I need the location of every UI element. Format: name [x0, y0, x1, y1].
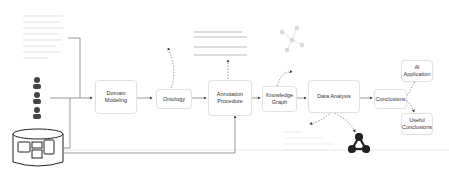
node-label: Data Analysis [317, 93, 350, 100]
node-annotation-procedure: Annotation Procedure [208, 80, 252, 116]
node-label: Domain Modeling [96, 90, 136, 104]
node-label: Knowledge Graph [263, 92, 296, 106]
document-thumbnail-icon [18, 8, 70, 64]
network-icon [348, 133, 370, 155]
node-label: AI Application [402, 64, 432, 78]
node-label: Ontology [163, 96, 185, 103]
node-domain-modeling: Domain Modeling [95, 80, 137, 114]
node-label: Annotation Procedure [209, 91, 251, 105]
node-label: Useful Conclusions [402, 117, 432, 131]
node-ontology: Ontology [156, 89, 192, 109]
graph-preview-icon [272, 20, 312, 65]
node-useful-conclusions: Useful Conclusions [401, 113, 433, 135]
analysis-text-preview [282, 128, 342, 158]
person-icons [28, 75, 46, 121]
annotation-text-preview [192, 28, 252, 63]
node-knowledge-graph: Knowledge Graph [262, 86, 297, 112]
node-label: Conclusions [376, 96, 406, 103]
node-conclusions: Conclusions [374, 89, 407, 109]
database-icon [10, 126, 66, 170]
node-data-analysis: Data Analysis [308, 80, 360, 113]
node-ai-application: AI Application [401, 60, 433, 82]
